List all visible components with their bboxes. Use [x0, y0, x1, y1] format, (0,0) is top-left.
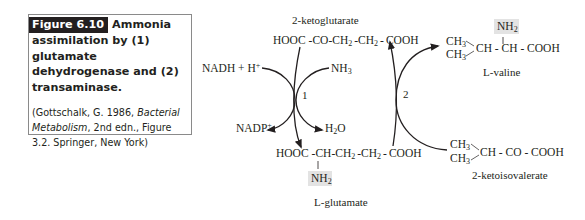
ketoisovalerate-ch3-top: CH3: [450, 138, 470, 152]
reaction-1-glutamate-dehydrogenase: NADH + H+ NH3 NADP+ H2O 1: [202, 47, 352, 147]
reaction-2-transaminase: 2: [390, 42, 447, 150]
valine-label: L-valine: [483, 66, 520, 78]
nh3-to-water-arc: [296, 68, 329, 130]
ketoglutarate-formula: HOOC-CO-CH2-CH2-COOH: [273, 34, 419, 48]
reaction-1-number: 1: [302, 89, 308, 101]
compound-2-ketoglutarate: 2-ketoglutarate HOOC-CO-CH2-CH2-COOH: [273, 14, 419, 48]
glutamate-label: L-glutamate: [314, 196, 368, 208]
reaction-diagram: 2-ketoglutarate HOOC-CO-CH2-CH2-COOH HOO…: [0, 0, 585, 220]
ketoglutarate-label: 2-ketoglutarate: [292, 14, 359, 26]
ketoisovalerate-label: 2-ketoisovalerate: [472, 169, 548, 181]
nadp-label: NADP+: [236, 121, 272, 134]
valine-backbone: CH - CH - COOH: [476, 42, 560, 54]
reaction-2-number: 2: [403, 88, 409, 100]
valine-ch3-bottom: CH3: [446, 48, 466, 62]
water-label: H2O: [325, 122, 346, 136]
glutamate-to-ketoglutarate-arrow: [390, 42, 396, 146]
nh3-label: NH3: [331, 62, 352, 76]
compound-2-ketoisovalerate: CH3 CH3 CH - CO - COOH 2-ketoisovalerate: [450, 138, 564, 181]
compound-l-glutamate: HOOC-CH-CH2-CH2-COOH NH2 L-glutamate: [276, 147, 422, 208]
nadh-label: NADH + H+: [202, 61, 261, 74]
glutamate-formula: HOOC-CH-CH2-CH2-COOH: [276, 147, 422, 161]
compound-l-valine: NH2 CH3 CH3 CH - CH - COOH L-valine: [446, 19, 560, 78]
ketoisovalerate-backbone: CH - CO - COOH: [480, 146, 564, 158]
ketoisovalerate-ch3-bottom: CH3: [450, 152, 470, 166]
valine-ch3-top: CH3: [446, 35, 466, 49]
